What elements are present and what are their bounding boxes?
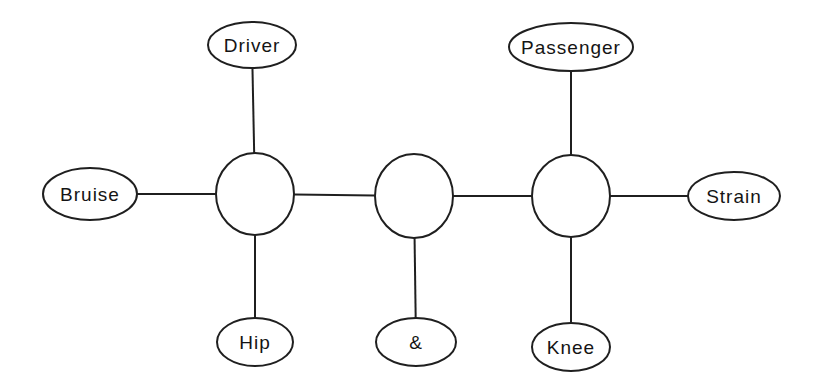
- node-clique-1: [216, 153, 294, 235]
- node-driver: Driver: [208, 22, 296, 68]
- node-strain: Strain: [688, 172, 780, 220]
- node-label-hip: Hip: [239, 332, 271, 353]
- clique-circle: [532, 155, 610, 237]
- node-clique-3: [532, 155, 610, 237]
- node-label-knee: Knee: [547, 337, 595, 358]
- node-passenger: Passenger: [509, 23, 633, 71]
- node-bruise: Bruise: [43, 168, 137, 220]
- node-hip: Hip: [217, 318, 293, 366]
- node-label-bruise: Bruise: [60, 184, 120, 205]
- node-label-driver: Driver: [224, 35, 281, 56]
- clique-circle: [375, 154, 453, 238]
- node-clique-2: [375, 154, 453, 238]
- graph-figure: DriverPassengerBruiseStrainHip&Knee: [0, 0, 819, 391]
- diagram-canvas: DriverPassengerBruiseStrainHip&Knee: [0, 0, 819, 391]
- clique-circle: [216, 153, 294, 235]
- node-amp: &: [376, 318, 456, 366]
- node-label-strain: Strain: [706, 186, 762, 207]
- node-knee: Knee: [532, 323, 610, 371]
- node-label-amp: &: [409, 332, 423, 353]
- node-label-passenger: Passenger: [521, 37, 621, 58]
